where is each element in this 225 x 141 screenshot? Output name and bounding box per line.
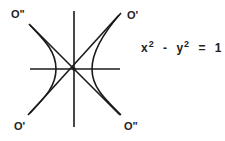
origin-point [72, 67, 76, 71]
label-bottom-right: O" [124, 121, 138, 132]
equation-y-var: y [176, 41, 183, 55]
equation-y-exponent: 2 [184, 39, 189, 49]
equation-x-exponent: 2 [149, 39, 154, 49]
equation-equals: = [198, 42, 205, 54]
label-top-left: O" [11, 9, 25, 20]
label-top-right: O' [127, 10, 138, 21]
hyperbola-equation: x2 - y2 = 1 [141, 40, 221, 54]
hyperbola-diagram [0, 0, 225, 141]
equation-rhs: 1 [215, 41, 222, 55]
equation-minus: - [163, 42, 167, 54]
equation-x-var: x [141, 41, 148, 55]
label-bottom-left: O' [14, 121, 25, 132]
